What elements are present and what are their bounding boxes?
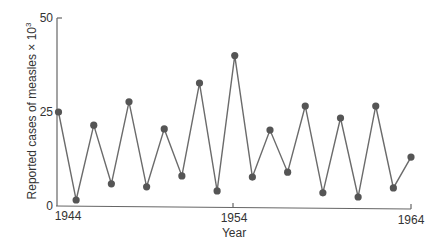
x-tick-labels: 1944 1954 1964 <box>55 209 425 227</box>
x-tick-label: 1944 <box>55 209 82 223</box>
x-axis-title: Year <box>222 226 246 240</box>
data-point <box>231 52 238 59</box>
data-point <box>284 169 291 176</box>
data-point <box>178 172 185 179</box>
data-point <box>337 114 344 121</box>
measles-chart: 50 25 0 1944 1954 1964 Year Reported cas… <box>0 0 445 247</box>
data-point <box>143 183 150 190</box>
data-point <box>319 189 326 196</box>
data-point <box>249 173 256 180</box>
data-point <box>407 154 414 161</box>
y-tick-label: 50 <box>40 11 54 25</box>
data-point <box>161 125 168 132</box>
series-line <box>59 56 412 200</box>
data-point <box>196 79 203 86</box>
y-axis-title: Reported cases of measles × 103 <box>24 22 39 199</box>
data-point <box>355 193 362 200</box>
data-series <box>55 52 415 204</box>
x-tick-label: 1964 <box>398 213 425 227</box>
x-tick-label: 1954 <box>221 211 248 225</box>
data-point <box>73 196 80 203</box>
data-point <box>108 180 115 187</box>
y-tick-label: 25 <box>40 105 54 119</box>
y-tick-label: 0 <box>46 199 53 213</box>
data-point <box>390 184 397 191</box>
data-point <box>214 187 221 194</box>
data-point <box>372 102 379 109</box>
data-point <box>266 126 273 133</box>
y-tick-labels: 50 25 0 <box>40 11 54 213</box>
data-point <box>302 102 309 109</box>
axes <box>56 18 411 209</box>
data-point <box>55 108 62 115</box>
data-point <box>90 122 97 129</box>
data-point <box>125 98 132 105</box>
